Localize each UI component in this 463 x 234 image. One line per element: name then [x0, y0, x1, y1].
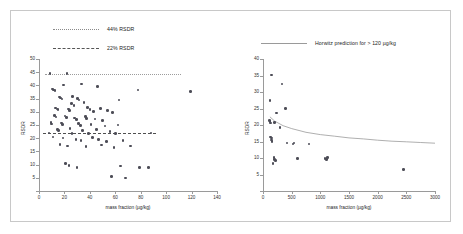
data-point [99, 107, 102, 110]
x-axis-tick [378, 191, 379, 194]
data-point [147, 166, 150, 169]
y-axis-tick-label: 40 [15, 83, 35, 88]
left-chart-legend: 44% RSDR 22% RSDR [53, 23, 134, 61]
y-axis-tick [36, 151, 39, 152]
x-axis-tick-label: 140 [203, 195, 231, 200]
data-point [402, 168, 405, 171]
y-axis-tick [36, 178, 39, 179]
x-axis-tick [64, 191, 65, 194]
data-point [85, 117, 88, 120]
x-axis-tick [406, 191, 407, 194]
x-axis-tick [192, 191, 193, 194]
data-point [65, 116, 68, 119]
data-point [92, 110, 95, 113]
x-axis-tick-label: 100 [152, 195, 180, 200]
y-axis-tick-label: 45 [15, 70, 35, 75]
data-point [273, 121, 276, 124]
data-point [75, 138, 78, 141]
x-axis-tick-label: 500 [278, 195, 306, 200]
y-axis-tick-label: 10 [15, 162, 35, 167]
x-axis-tick-label: 2500 [392, 195, 420, 200]
y-axis-tick-label: 5 [15, 175, 35, 180]
data-point [269, 99, 272, 102]
y-axis-tick-label: 15 [15, 149, 35, 154]
x-axis-tick-label: 80 [127, 195, 155, 200]
data-point [111, 111, 114, 114]
data-point [87, 132, 90, 135]
data-point [71, 95, 74, 98]
data-point [66, 72, 69, 75]
y-axis-tick-label: 35 [15, 96, 35, 101]
x-axis-tick [349, 191, 350, 194]
legend-label-22-rsdr: 22% RSDR [107, 45, 134, 51]
legend-label-44-rsdr: 44% RSDR [107, 26, 134, 32]
data-point [270, 74, 273, 77]
data-point [96, 85, 99, 88]
y-axis-tick-label: 25 [15, 122, 35, 127]
y-axis-tick [36, 165, 39, 166]
y-axis-line [39, 59, 40, 191]
y-axis-tick [36, 125, 39, 126]
x-axis-line [39, 191, 217, 192]
x-axis-tick [263, 191, 264, 194]
y-axis-tick-label: 10 [239, 155, 259, 160]
data-point [100, 144, 103, 147]
data-point [272, 162, 275, 165]
x-axis-tick [320, 191, 321, 194]
right-chart-panel: Horwitz prediction for > 120 µg/kg RSDR … [233, 11, 452, 223]
legend-item-22-rsdr: 22% RSDR [53, 42, 134, 54]
x-axis-tick-label: 0 [249, 195, 277, 200]
data-point [95, 128, 98, 131]
data-point [189, 90, 192, 93]
x-axis-tick-label: 1500 [335, 195, 363, 200]
data-point [59, 143, 62, 146]
x-axis-tick-label: 20 [50, 195, 78, 200]
data-point [114, 132, 117, 135]
data-point [106, 109, 109, 112]
legend-label-horwitz: Horwitz prediction for > 120 µg/kg [315, 40, 396, 46]
data-point [274, 159, 277, 162]
y-axis-tick [36, 59, 39, 60]
figure-frame: 44% RSDR 22% RSDR RSDR mass fraction (µg… [10, 10, 451, 222]
data-point [66, 145, 69, 148]
y-axis-tick [36, 112, 39, 113]
y-axis-tick-label: 20 [239, 122, 259, 127]
y-axis-tick-label: 15 [239, 139, 259, 144]
y-axis-tick-label: 40 [239, 56, 259, 61]
data-point [75, 118, 78, 121]
x-axis-tick [292, 191, 293, 194]
x-axis-tick-label: 2000 [364, 195, 392, 200]
x-axis-tick [90, 191, 91, 194]
left-plot-area [39, 59, 217, 191]
y-axis-tick-label: 50 [15, 56, 35, 61]
right-x-axis-title: mass fraction (µg/kg) [321, 205, 377, 210]
x-axis-tick-label: 3000 [421, 195, 449, 200]
data-point [110, 175, 113, 178]
data-point [326, 156, 329, 159]
left-x-axis-title: mass fraction (µg/kg) [100, 205, 156, 210]
legend-item-44-rsdr: 44% RSDR [53, 23, 134, 35]
horwitz-prediction-curve [263, 59, 435, 191]
y-axis-tick-label: 35 [239, 73, 259, 78]
x-axis-tick [39, 191, 40, 194]
y-axis-tick-label: 30 [239, 89, 259, 94]
x-axis-tick-label: 40 [76, 195, 104, 200]
data-point [49, 72, 52, 75]
x-axis-tick [435, 191, 436, 194]
data-point [138, 166, 141, 169]
y-axis-tick-label: 25 [239, 106, 259, 111]
x-axis-tick-label: 120 [178, 195, 206, 200]
x-axis-tick [166, 191, 167, 194]
x-axis-tick [141, 191, 142, 194]
data-point [68, 109, 71, 112]
data-point [91, 136, 94, 139]
data-point [101, 119, 104, 122]
x-axis-tick-label: 0 [25, 195, 53, 200]
data-point [64, 162, 67, 165]
data-point [54, 89, 57, 92]
data-point [61, 123, 64, 126]
data-point [122, 139, 125, 142]
y-axis-tick-label: 5 [239, 172, 259, 177]
y-axis-tick-label: 30 [15, 109, 35, 114]
x-axis-tick-label: 1000 [306, 195, 334, 200]
